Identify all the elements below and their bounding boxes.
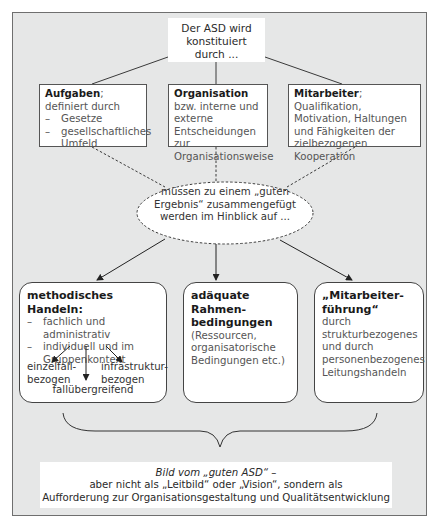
connector-lines: [0, 0, 438, 531]
factor-text: bzw. interne und externe Entscheidungen …: [174, 101, 273, 162]
branch-fallübergreifend: fallübergreifend: [19, 384, 167, 397]
bullet-item: Gesetze: [45, 113, 141, 126]
conclusion-title: Bild vom „guten ASD“ –: [156, 467, 277, 478]
factor-title: Mitarbeiter: [294, 88, 359, 99]
conclusion-box: Bild vom „guten ASD“ – aber nicht als „L…: [40, 462, 392, 508]
root-line-2: konstituiert: [173, 35, 260, 48]
outcome-title: adäquate Rahmen-bedingungen: [191, 289, 273, 329]
conclusion-line-3: Aufforderung zur Organisationsgestaltung…: [40, 492, 392, 504]
outcome-rahmenbedingungen: adäquate Rahmen-bedingungen (Ressourcen,…: [183, 282, 298, 403]
branch-einzelfallbezogen: einzelfall-bezogen: [27, 361, 87, 386]
root-line-1: Der ASD wird: [173, 22, 260, 35]
factor-aufgaben: Aufgaben; definiert durch Gesetze gesell…: [39, 84, 147, 147]
bullet-item: gesellschaftliches Umfeld: [45, 126, 141, 151]
outcome-bullets: fachlich und administrativ individuell u…: [27, 316, 159, 366]
branch-infrastrukturbezogen: infrastruktur-bezogen: [101, 361, 163, 386]
factor-bullets: Gesetze gesellschaftliches Umfeld: [45, 113, 141, 151]
connector-ellipse-text: müssen zu einem „guten Ergebnis“ zusamme…: [145, 186, 305, 224]
outcome-detail: durch strukturbezogenes und durch person…: [322, 316, 416, 379]
root-node: Der ASD wird konstituiert durch ...: [168, 18, 265, 62]
conclusion-line-2: aber nicht als „Leitbild“ oder „Vision“,…: [40, 479, 392, 491]
outcome-detail: (Ressourcen, organisatorische Bedingunge…: [191, 330, 290, 368]
factor-organisation: Organisation bzw. interne und externe En…: [168, 84, 268, 147]
factor-title: Organisation: [174, 88, 248, 99]
bullet-item: fachlich und administrativ: [27, 316, 159, 341]
outcome-title: „Mitarbeiter-führung“: [322, 289, 404, 316]
root-line-3: durch ...: [173, 48, 260, 61]
factor-mitarbeiter: Mitarbeiter; Qualifikation, Motivation, …: [288, 84, 421, 147]
factor-title: Aufgaben: [45, 88, 100, 99]
outcome-title: methodisches Handeln:: [27, 289, 113, 316]
outcome-mitarbeiterfuehrung: „Mitarbeiter-führung“ durch strukturbezo…: [314, 282, 424, 403]
